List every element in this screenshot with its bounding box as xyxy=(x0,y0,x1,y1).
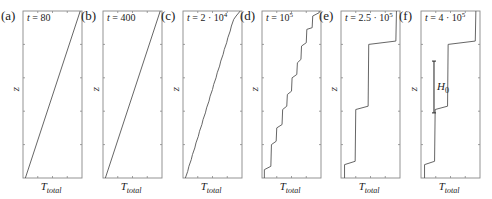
x-axis-label: Ttotal xyxy=(121,180,143,195)
time-exponent: 5 xyxy=(389,11,393,19)
panel-f: (f)t = 4 · 105zTtotalH0 xyxy=(399,8,480,195)
panel-label: (c) xyxy=(161,8,175,23)
temperature-profile-line xyxy=(425,11,476,178)
x-axis-label-sub: total xyxy=(207,186,222,195)
panel-c: (c)t = 2 · 104zTtotal xyxy=(161,8,242,195)
panel-frame xyxy=(421,11,480,178)
panel-b: (b)t = 400zTtotal xyxy=(81,8,162,195)
panel-d: (d)t = 105zTtotal xyxy=(240,8,321,195)
y-axis-label: z xyxy=(407,86,419,92)
x-axis-label: Ttotal xyxy=(439,180,461,195)
y-axis-label: z xyxy=(248,86,260,92)
panel-label: (e) xyxy=(319,8,333,23)
time-label: t = 400 xyxy=(107,12,135,23)
panel-label: (a) xyxy=(1,8,15,23)
x-axis-label-sub: total xyxy=(365,186,380,195)
figure: (a)t = 80zTtotal(b)t = 400zTtotal(c)t = … xyxy=(0,0,492,199)
temperature-profile-line xyxy=(264,11,319,178)
time-exponent: 5 xyxy=(289,11,293,19)
panel-label: (d) xyxy=(240,8,255,23)
time-value: = 4 · 10 xyxy=(428,12,462,23)
y-axis-label: z xyxy=(169,86,181,92)
time-value: = 2.5 · 10 xyxy=(348,12,389,23)
time-value: = 2 · 10 xyxy=(190,12,224,23)
temperature-profile-line xyxy=(185,11,240,178)
x-axis-label-sub: total xyxy=(445,186,460,195)
time-exponent: 4 xyxy=(224,11,228,19)
time-value: = 80 xyxy=(30,12,51,23)
x-axis-label: Ttotal xyxy=(41,180,63,195)
temperature-profile-line xyxy=(345,11,397,178)
time-label: t = 2.5 · 105 xyxy=(345,11,393,23)
y-axis-label: z xyxy=(9,86,21,92)
time-label: t = 105 xyxy=(266,11,293,23)
x-axis-label: Ttotal xyxy=(201,180,223,195)
panel-frame xyxy=(183,11,242,178)
time-value: = 10 xyxy=(269,12,290,23)
h0-label: H0 xyxy=(436,80,449,95)
panel-label: (b) xyxy=(81,8,96,23)
temperature-profile-line xyxy=(25,11,80,178)
x-axis-label-sub: total xyxy=(286,186,301,195)
time-label: t = 2 · 104 xyxy=(187,11,228,23)
h0-scale-bar: H0 xyxy=(432,61,449,113)
time-exponent: 5 xyxy=(462,11,466,19)
x-axis-label-sub: total xyxy=(47,186,62,195)
panel-label: (f) xyxy=(399,8,412,23)
time-label: t = 4 · 105 xyxy=(425,11,466,23)
x-axis-label-sub: total xyxy=(127,186,142,195)
x-axis-label: Ttotal xyxy=(359,180,381,195)
time-label: t = 80 xyxy=(27,12,50,23)
panel-e: (e)t = 2.5 · 105zTtotal xyxy=(319,8,400,195)
time-value: = 400 xyxy=(110,12,136,23)
y-axis-label: z xyxy=(89,86,101,92)
y-axis-label: z xyxy=(327,86,339,92)
temperature-profile-line xyxy=(105,11,160,178)
panel-frame xyxy=(341,11,400,178)
x-axis-label: Ttotal xyxy=(280,180,302,195)
h0-label-sub: 0 xyxy=(445,86,449,95)
panel-a: (a)t = 80zTtotal xyxy=(1,8,82,195)
